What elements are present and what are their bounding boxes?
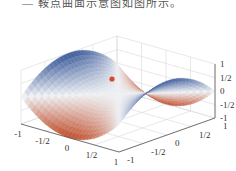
y-tick-label: -1/2 (151, 147, 166, 157)
saddle-surface-plot: -1-1/201/21-1-1/201/2111/20-1/2-1 (0, 0, 236, 171)
z-tick-label: -1/2 (220, 100, 235, 110)
x-tick-label: -1 (14, 129, 22, 139)
z-tick-label: -1 (220, 113, 228, 123)
saddle-point-layer (109, 76, 114, 81)
x-tick-label: -1/2 (35, 136, 50, 146)
x-tick-label: 1 (114, 157, 119, 167)
z-tick-label: 1 (220, 59, 225, 69)
x-tick-label: 1/2 (86, 150, 98, 160)
surface (21, 50, 215, 140)
saddle-point-marker (109, 76, 114, 81)
x-tick-label: 0 (65, 143, 70, 153)
y-tick-label: 0 (175, 138, 180, 148)
y-tick-label: -1 (127, 155, 135, 165)
y-tick-label: 1/2 (199, 130, 211, 140)
z-tick-label: 0 (220, 86, 225, 96)
z-tick-label: 1/2 (220, 73, 232, 83)
